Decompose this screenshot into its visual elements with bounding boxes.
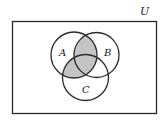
set-label-b: B <box>103 47 111 58</box>
venn-diagram: U A B C <box>0 0 167 120</box>
set-label-a: A <box>58 47 66 58</box>
set-label-c: C <box>82 84 90 95</box>
universe-label: U <box>140 5 150 18</box>
shaded-region <box>63 33 120 101</box>
